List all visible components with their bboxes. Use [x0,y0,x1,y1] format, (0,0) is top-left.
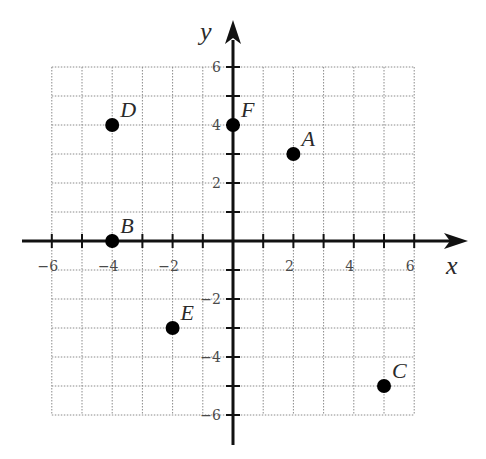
point-a: A [286,126,315,161]
point-marker-icon [377,379,391,393]
data-points: ABCDEF [105,97,407,393]
point-marker-icon [286,147,300,161]
point-marker-icon [226,118,240,132]
point-d: D [105,97,136,132]
point-label: D [119,97,136,122]
y-tick-label: −2 [200,291,221,307]
x-tick-label: 2 [285,258,294,274]
point-e: E [166,300,195,335]
point-label: B [120,213,133,238]
coordinate-plane: −6−4−2246642−2−4−6 ABCDEF x y [0,0,486,459]
point-marker-icon [105,118,119,132]
x-tick-label: −2 [158,258,179,274]
y-tick-label: −6 [200,407,221,423]
x-tick-label: −4 [98,258,119,274]
x-tick-label: −6 [37,258,58,274]
point-label: F [240,97,255,122]
y-tick-label: −4 [200,349,221,365]
y-tick-label: 4 [212,117,221,133]
y-axis-label: y [197,17,212,46]
y-tick-label: 2 [212,175,221,191]
point-label: C [392,358,407,383]
point-b: B [105,213,133,248]
x-tick-label: 6 [406,258,415,274]
x-axis-label: x [445,251,458,280]
point-c: C [377,358,407,393]
point-label: E [180,300,195,325]
x-tick-label: 4 [345,258,354,274]
point-marker-icon [105,234,119,248]
point-label: A [299,126,315,151]
point-marker-icon [166,321,180,335]
y-tick-label: 6 [212,59,221,75]
point-f: F [226,97,255,132]
